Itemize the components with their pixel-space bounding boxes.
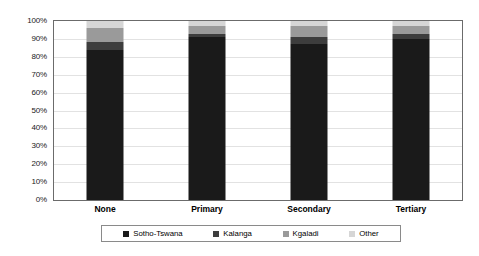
legend-item[interactable]: Kalanga — [213, 229, 252, 238]
stacked-bar[interactable] — [291, 21, 328, 200]
legend-item[interactable]: Sotho-Tswana — [123, 229, 182, 238]
chart-legend: Sotho-TswanaKalangaKgaladiOther — [101, 225, 401, 242]
x-axis-category-label: Primary — [156, 203, 258, 215]
y-axis-tick-label: 20% — [32, 160, 47, 168]
legend-swatch-icon — [213, 231, 219, 237]
bar-segment[interactable] — [393, 26, 430, 33]
y-axis-tick-label: 100% — [27, 17, 47, 25]
legend-label: Other — [359, 229, 379, 238]
y-axis-tick-label: 30% — [32, 142, 47, 150]
bar-slot — [156, 21, 258, 200]
bar-segment[interactable] — [291, 26, 328, 37]
bar-segment[interactable] — [393, 39, 430, 200]
legend-swatch-icon — [283, 231, 289, 237]
legend-item[interactable]: Other — [349, 229, 379, 238]
legend-label: Sotho-Tswana — [133, 229, 182, 238]
bar-segment[interactable] — [189, 37, 226, 200]
stacked-bar[interactable] — [393, 21, 430, 200]
y-axis-tick-label: 10% — [32, 178, 47, 186]
bar-slot — [54, 21, 156, 200]
stacked-bar[interactable] — [87, 21, 124, 200]
bar-segment[interactable] — [87, 42, 124, 49]
bar-segment[interactable] — [87, 28, 124, 42]
legend-label: Kalanga — [223, 229, 252, 238]
bar-slot — [360, 21, 462, 200]
bar-segment[interactable] — [291, 44, 328, 200]
legend-item[interactable]: Kgaladi — [283, 229, 319, 238]
bar-segment[interactable] — [87, 21, 124, 28]
x-axis-category-label: Secondary — [258, 203, 360, 215]
bar-segment[interactable] — [87, 50, 124, 200]
y-axis-tick-label: 60% — [32, 89, 47, 97]
y-axis-tick-label: 80% — [32, 53, 47, 61]
y-axis: 100%90%80%70%60%50%40%30%20%10%0% — [0, 20, 51, 201]
x-axis: NonePrimarySecondaryTertiary — [54, 203, 462, 219]
y-axis-tick-label: 70% — [32, 71, 47, 79]
legend-label: Kgaladi — [293, 229, 319, 238]
y-axis-tick-label: 40% — [32, 124, 47, 132]
legend-swatch-icon — [349, 231, 355, 237]
bar-slot — [258, 21, 360, 200]
stacked-bar-chart: 100%90%80%70%60%50%40%30%20%10%0% NonePr… — [0, 0, 479, 256]
y-axis-tick-label: 0% — [36, 196, 47, 204]
stacked-bar[interactable] — [189, 21, 226, 200]
y-axis-tick-label: 90% — [32, 35, 47, 43]
bar-segment[interactable] — [291, 37, 328, 44]
y-axis-tick-label: 50% — [32, 107, 47, 115]
bars-layer — [54, 21, 462, 200]
legend-swatch-icon — [123, 231, 129, 237]
x-axis-category-label: None — [54, 203, 156, 215]
bar-segment[interactable] — [189, 26, 226, 33]
x-axis-category-label: Tertiary — [360, 203, 462, 215]
